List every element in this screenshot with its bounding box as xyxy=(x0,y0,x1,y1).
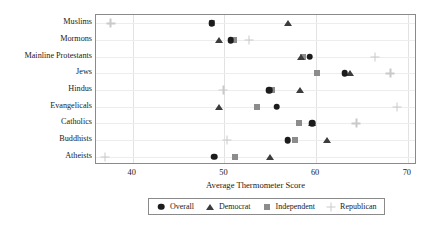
legend-item: Independent xyxy=(262,202,316,212)
data-point-republican xyxy=(352,119,361,128)
gridline-horizontal xyxy=(96,123,415,124)
gridline-horizontal xyxy=(96,57,415,58)
category-label: Hindus xyxy=(68,85,92,93)
data-point-republican xyxy=(392,102,401,111)
data-point-overall xyxy=(266,87,273,94)
legend-item: Overall xyxy=(156,202,194,212)
legend-swatch-shape xyxy=(327,202,336,211)
plot-area xyxy=(95,14,416,164)
data-point-democrat xyxy=(323,137,331,143)
data-point-republican xyxy=(219,86,228,95)
legend-item: Democrat xyxy=(205,202,251,212)
data-point-independent xyxy=(314,70,320,76)
data-point-overall xyxy=(228,37,235,44)
gridline-horizontal xyxy=(96,90,415,91)
chart-legend: OverallDemocratIndependentRepublican xyxy=(148,198,385,215)
legend-swatch-shape xyxy=(264,204,270,210)
data-point-republican xyxy=(245,36,254,45)
data-point-overall xyxy=(341,70,348,77)
category-label: Catholics xyxy=(61,118,92,126)
data-point-overall xyxy=(309,120,316,127)
category-label: Jews xyxy=(76,68,92,76)
x-tick-label: 50 xyxy=(219,168,227,177)
legend-marker-republican-icon xyxy=(326,202,336,212)
data-point-democrat xyxy=(296,87,304,93)
category-label: Mormons xyxy=(60,35,92,43)
data-point-democrat xyxy=(215,37,223,43)
data-point-republican xyxy=(101,152,110,161)
legend-marker-independent-icon xyxy=(262,202,272,212)
data-point-democrat xyxy=(297,54,305,60)
gridline-horizontal xyxy=(96,23,415,24)
data-point-republican xyxy=(370,52,379,61)
data-point-republican xyxy=(223,136,232,145)
data-point-overall xyxy=(306,53,313,60)
thermometer-score-chart: MuslimsMormonsMainline ProtestantsJewsHi… xyxy=(0,0,431,227)
legend-label: Overall xyxy=(170,202,194,211)
x-tick-label: 60 xyxy=(311,168,319,177)
data-point-democrat xyxy=(215,104,223,110)
data-point-republican xyxy=(386,69,395,78)
data-point-democrat xyxy=(266,154,274,160)
legend-label: Independent xyxy=(276,202,316,211)
data-point-overall xyxy=(211,153,218,160)
gridline-horizontal xyxy=(96,40,415,41)
category-label: Evangelicals xyxy=(50,102,92,110)
gridline-horizontal xyxy=(96,157,415,158)
gridline-horizontal xyxy=(96,140,415,141)
gridline-horizontal xyxy=(96,73,415,74)
category-label: Muslims xyxy=(63,18,92,26)
data-point-democrat xyxy=(284,20,292,26)
data-point-independent xyxy=(296,120,302,126)
legend-marker-democrat-icon xyxy=(205,202,215,212)
data-point-independent xyxy=(292,137,298,143)
data-point-overall xyxy=(208,20,215,27)
data-point-overall xyxy=(284,137,291,144)
legend-label: Democrat xyxy=(219,202,251,211)
data-point-overall xyxy=(273,103,280,110)
x-tick-label: 40 xyxy=(127,168,135,177)
legend-item: Republican xyxy=(326,202,376,212)
x-axis-title: Average Thermometer Score xyxy=(95,180,416,190)
data-point-independent xyxy=(232,154,238,160)
data-point-republican xyxy=(106,19,115,28)
legend-swatch-shape xyxy=(206,204,214,210)
legend-swatch-shape xyxy=(158,203,165,210)
y-axis-category-labels: MuslimsMormonsMainline ProtestantsJewsHi… xyxy=(0,14,92,164)
x-tick-label: 70 xyxy=(403,168,411,177)
category-label: Atheists xyxy=(65,152,92,160)
legend-label: Republican xyxy=(340,202,376,211)
legend-marker-overall-icon xyxy=(156,202,166,212)
category-label: Mainline Protestants xyxy=(24,52,92,60)
category-label: Buddhists xyxy=(59,135,92,143)
data-point-independent xyxy=(254,104,260,110)
